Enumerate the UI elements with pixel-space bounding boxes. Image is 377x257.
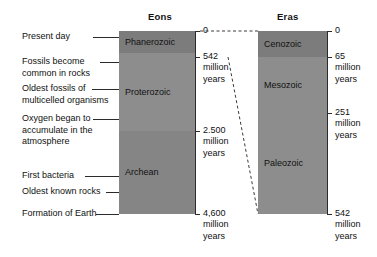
connector-bottom-dashed — [228, 57, 258, 214]
geologic-time-scale-figure: Eons Eras Phanerozoic Proterozoic Archea… — [0, 0, 377, 257]
expansion-connector-lines — [0, 0, 377, 257]
